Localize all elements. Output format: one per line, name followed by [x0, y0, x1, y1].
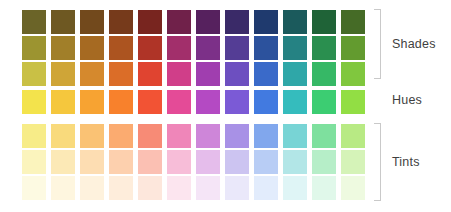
color-swatch [22, 176, 46, 200]
color-swatch [312, 124, 336, 148]
color-swatch [80, 124, 104, 148]
color-swatch [254, 10, 278, 34]
color-swatch [225, 90, 249, 114]
swatch-group-hues [22, 90, 365, 116]
bracket-shades [374, 9, 381, 79]
color-swatch [283, 10, 307, 34]
color-swatch [167, 150, 191, 174]
color-swatch [51, 36, 75, 60]
swatch-row [22, 176, 365, 200]
color-swatch [196, 90, 220, 114]
swatch-row [22, 90, 365, 114]
color-swatch [225, 10, 249, 34]
color-swatch [341, 36, 365, 60]
color-swatch [138, 36, 162, 60]
color-swatch [225, 36, 249, 60]
color-swatch [80, 36, 104, 60]
group-label-shades: Shades [392, 37, 436, 51]
color-swatch [283, 150, 307, 174]
color-swatch [138, 124, 162, 148]
color-swatch [167, 36, 191, 60]
color-swatch [109, 176, 133, 200]
color-swatch [196, 10, 220, 34]
color-swatch [138, 90, 162, 114]
color-swatch [80, 10, 104, 34]
color-swatch [196, 36, 220, 60]
color-swatch [51, 62, 75, 86]
color-swatch [341, 10, 365, 34]
group-label-hues: Hues [392, 93, 422, 107]
color-swatch [138, 176, 162, 200]
color-palette-figure: Shades Hues Tints [0, 0, 451, 212]
color-swatch [109, 36, 133, 60]
color-swatch [283, 176, 307, 200]
swatch-group-tints [22, 124, 365, 202]
color-swatch [22, 62, 46, 86]
color-swatch [254, 62, 278, 86]
color-swatch [167, 62, 191, 86]
color-swatch [312, 36, 336, 60]
color-swatch [341, 62, 365, 86]
color-swatch [80, 90, 104, 114]
swatch-group-shades [22, 10, 365, 88]
color-swatch [341, 90, 365, 114]
color-swatch [167, 10, 191, 34]
color-swatch [254, 176, 278, 200]
color-swatch [283, 62, 307, 86]
color-swatch [312, 150, 336, 174]
color-swatch [225, 124, 249, 148]
color-swatch [51, 176, 75, 200]
color-swatch [254, 36, 278, 60]
color-swatch [80, 176, 104, 200]
color-swatch [22, 124, 46, 148]
bracket-tints [374, 123, 381, 201]
color-swatch [254, 90, 278, 114]
color-swatch [22, 90, 46, 114]
color-swatch [312, 176, 336, 200]
color-swatch [138, 62, 162, 86]
color-swatch [283, 90, 307, 114]
color-swatch [312, 62, 336, 86]
color-swatch [283, 124, 307, 148]
color-swatch [312, 10, 336, 34]
color-swatch [225, 150, 249, 174]
color-swatch [22, 10, 46, 34]
color-swatch [80, 62, 104, 86]
color-swatch [312, 90, 336, 114]
color-swatch [283, 36, 307, 60]
swatch-row [22, 150, 365, 174]
color-swatch [225, 176, 249, 200]
color-swatch [225, 62, 249, 86]
color-swatch [109, 150, 133, 174]
color-swatch [167, 124, 191, 148]
color-swatch [167, 90, 191, 114]
color-swatch [109, 62, 133, 86]
group-label-tints: Tints [392, 155, 420, 169]
color-swatch [109, 124, 133, 148]
color-swatch [254, 124, 278, 148]
color-swatch [109, 90, 133, 114]
color-swatch [80, 150, 104, 174]
color-swatch [51, 10, 75, 34]
color-swatch [22, 150, 46, 174]
color-swatch [196, 124, 220, 148]
color-swatch [254, 150, 278, 174]
swatch-row [22, 62, 365, 86]
color-swatch [51, 90, 75, 114]
color-swatch [51, 124, 75, 148]
color-swatch [109, 10, 133, 34]
color-swatch [341, 150, 365, 174]
color-swatch [341, 176, 365, 200]
color-swatch [196, 62, 220, 86]
color-swatch [138, 10, 162, 34]
color-swatch [341, 124, 365, 148]
color-swatch [167, 176, 191, 200]
color-swatch [196, 150, 220, 174]
swatch-row [22, 10, 365, 34]
color-swatch [138, 150, 162, 174]
color-swatch [51, 150, 75, 174]
color-swatch [22, 36, 46, 60]
color-swatch [196, 176, 220, 200]
swatch-row [22, 124, 365, 148]
swatch-row [22, 36, 365, 60]
